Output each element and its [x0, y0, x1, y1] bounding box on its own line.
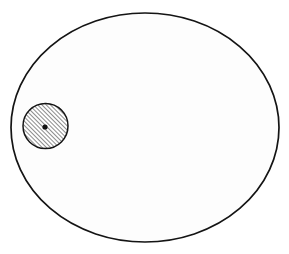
- center-point-marker: [42, 124, 47, 129]
- geometric-diagram-svg: [0, 0, 289, 254]
- figure-canvas: [0, 0, 289, 254]
